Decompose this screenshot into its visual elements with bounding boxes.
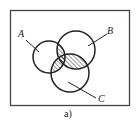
label-a: A [17,28,25,39]
label-b: B [107,25,113,36]
venn-diagram: A B C a) [0,0,136,128]
label-c: C [98,93,105,104]
leader-b [88,34,107,46]
caption: a) [64,108,72,120]
leader-c [68,82,96,98]
